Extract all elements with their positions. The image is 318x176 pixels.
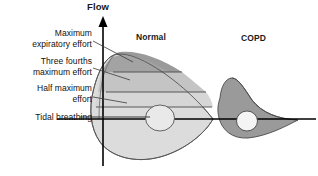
y-axis-arrowhead [99,16,108,27]
curve-label-normal: Normal [136,32,166,43]
copd-curve-group [218,78,298,138]
y-axis-label-flow: Flow [87,2,109,13]
annotation-maximum-expiratory-effort: Maximum expiratory effort [2,28,92,49]
curve-label-copd: COPD [241,33,266,44]
normal-curve-group [91,52,213,160]
annotation-tidal-breathing: Tidal breathing [2,112,92,123]
tidal-breathing-loop [146,105,175,131]
annotation-three-fourths-maximum-effort: Three fourths maximum effort [2,56,92,77]
flow-volume-loop-figure: Flow Normal COPD Maximum expiratory effo… [0,0,318,176]
copd-tidal-breathing-loop [237,111,258,131]
annotation-half-maximum-effort: Half maximum effort [2,83,92,104]
copd-loop [218,78,298,138]
